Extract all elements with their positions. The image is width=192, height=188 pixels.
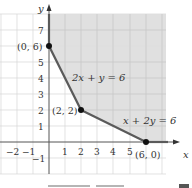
x-axis-arrow-icon	[173, 140, 180, 145]
y-tick-5: 5	[38, 58, 44, 68]
x-tick-2: 2	[78, 147, 84, 157]
x-tick-m2: −2	[6, 147, 19, 157]
x-tick-m1: −1	[22, 147, 35, 157]
y-axis-arrow-icon	[47, 4, 52, 11]
vertex-label-6-0: (6, 0)	[135, 149, 161, 160]
vertex-label-0-6: (0, 6)	[17, 41, 43, 52]
y-axis-label: y	[37, 3, 44, 14]
vertex-0-6	[46, 43, 52, 49]
feasible-region-chart: y x 7 5 4 3 2 1 −1 −2 −1 1 2 3 4 5 (0, 6…	[0, 0, 192, 188]
vertex-6-0	[143, 139, 149, 145]
vertex-2-2	[78, 107, 84, 113]
caption-cutoff	[48, 184, 189, 188]
y-tick-2: 2	[38, 106, 44, 116]
y-tick-1: 1	[38, 122, 44, 132]
equation-label-2x-plus-y: 2x + y = 6	[71, 72, 126, 83]
vertex-label-2-2: (2, 2)	[52, 105, 78, 116]
y-tick-4: 4	[38, 74, 44, 84]
x-axis-label: x	[183, 149, 189, 160]
x-tick-1: 1	[62, 147, 68, 157]
x-tick-5: 5	[127, 147, 133, 157]
y-tick-7: 7	[38, 26, 44, 36]
equation-label-x-plus-2y: x + 2y = 6	[123, 115, 177, 126]
x-tick-4: 4	[110, 147, 116, 157]
x-tick-3: 3	[94, 147, 100, 157]
y-tick-3: 3	[38, 90, 44, 100]
